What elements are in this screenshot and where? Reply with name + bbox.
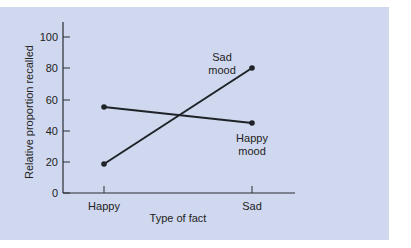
x-ticks: Happy Sad bbox=[88, 186, 262, 212]
data-point bbox=[101, 161, 107, 167]
y-tick-label: 80 bbox=[46, 62, 58, 74]
happy-mood-label-line1: Happy bbox=[236, 132, 268, 144]
x-axis-title: Type of fact bbox=[150, 212, 207, 224]
y-tick-label: 0 bbox=[52, 187, 58, 199]
data-point bbox=[249, 65, 255, 71]
sad-mood-label-line2: mood bbox=[208, 64, 236, 76]
line-chart: 0 20 40 60 80 100 Happy Sad Type of fact… bbox=[0, 0, 411, 248]
data-point bbox=[249, 120, 255, 126]
happy-mood-label-line2: mood bbox=[238, 145, 266, 157]
y-tick-label: 20 bbox=[46, 156, 58, 168]
x-tick-label: Happy bbox=[88, 200, 120, 212]
data-point bbox=[101, 104, 107, 110]
y-axis-title: Relative proportion recalled bbox=[23, 45, 35, 179]
y-tick-label: 60 bbox=[46, 94, 58, 106]
y-ticks: 0 20 40 60 80 100 bbox=[40, 31, 70, 199]
y-tick-label: 100 bbox=[40, 31, 58, 43]
y-tick-label: 40 bbox=[46, 125, 58, 137]
x-tick-label: Sad bbox=[242, 200, 262, 212]
sad-mood-label-line1: Sad bbox=[212, 51, 232, 63]
